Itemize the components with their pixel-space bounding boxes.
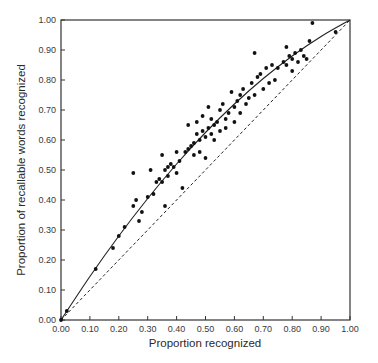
x-tick-label: 1.00 (341, 324, 359, 334)
data-point (256, 75, 260, 79)
data-point (201, 114, 205, 118)
data-point (296, 60, 300, 64)
data-point (186, 123, 190, 127)
data-point (250, 81, 254, 85)
x-tick-label: 0.50 (197, 324, 215, 334)
data-point (123, 225, 127, 229)
data-point (175, 171, 179, 175)
data-point (224, 126, 228, 130)
scatter-chart: 0.000.100.200.300.400.500.600.700.800.90… (0, 0, 378, 363)
data-point (65, 309, 69, 313)
data-point (209, 117, 213, 121)
data-point (273, 78, 277, 82)
data-point (259, 72, 263, 76)
y-tick-label: 0.90 (38, 45, 56, 55)
data-point (215, 120, 219, 124)
data-point (163, 204, 167, 208)
data-point (94, 267, 98, 271)
data-point (299, 48, 303, 52)
y-axis-title: Proportion of recallable words recognize… (15, 64, 27, 276)
y-tick-label: 0.10 (38, 285, 56, 295)
data-point (241, 87, 245, 91)
data-point (195, 120, 199, 124)
data-point (218, 129, 222, 133)
data-point (224, 117, 228, 121)
data-point (59, 318, 63, 322)
data-point (209, 132, 213, 136)
data-point (140, 210, 144, 214)
data-point (204, 135, 208, 139)
y-tick-label: 0.60 (38, 135, 56, 145)
data-point (212, 138, 216, 142)
y-tick-label: 0.70 (38, 105, 56, 115)
x-axis-ticks: 0.000.100.200.300.400.500.600.700.800.90… (52, 316, 359, 334)
data-points (59, 21, 337, 322)
data-point (163, 168, 167, 172)
x-tick-label: 0.60 (226, 324, 244, 334)
data-point (302, 54, 306, 58)
data-point (192, 141, 196, 145)
x-tick-label: 0.80 (283, 324, 301, 334)
y-tick-label: 0.20 (38, 255, 56, 265)
x-tick-label: 0.20 (110, 324, 128, 334)
data-point (230, 90, 234, 94)
data-point (285, 63, 289, 67)
data-point (290, 69, 294, 73)
data-point (287, 54, 291, 58)
data-point (221, 102, 225, 106)
data-point (261, 87, 265, 91)
data-point (238, 93, 242, 97)
data-point (189, 144, 193, 148)
data-point (111, 246, 115, 250)
data-point (238, 111, 242, 115)
data-point (175, 150, 179, 154)
data-point (198, 138, 202, 142)
x-tick-label: 0.00 (52, 324, 70, 334)
chance-diagonal-line (61, 20, 350, 320)
data-point (270, 63, 274, 67)
data-point (233, 120, 237, 124)
y-tick-label: 1.00 (38, 15, 56, 25)
data-point (267, 81, 271, 85)
data-point (293, 51, 297, 55)
y-tick-label: 0.50 (38, 165, 56, 175)
data-point (233, 105, 237, 109)
data-point (169, 162, 173, 166)
data-point (276, 66, 280, 70)
data-point (149, 168, 153, 172)
x-tick-label: 0.40 (168, 324, 186, 334)
data-point (186, 147, 190, 151)
data-point (308, 39, 312, 43)
data-point (192, 153, 196, 157)
data-point (160, 180, 164, 184)
data-point (253, 51, 257, 55)
data-point (334, 30, 338, 34)
x-tick-label: 0.10 (81, 324, 99, 334)
data-point (207, 126, 211, 130)
data-point (198, 150, 202, 154)
x-tick-label: 0.30 (139, 324, 157, 334)
data-point (201, 129, 205, 133)
data-point (152, 192, 156, 196)
y-tick-label: 0.40 (38, 195, 56, 205)
data-point (166, 174, 170, 178)
data-point (181, 186, 185, 190)
data-point (264, 66, 268, 70)
data-point (227, 111, 231, 115)
data-point (305, 57, 309, 61)
data-point (244, 102, 248, 106)
data-point (235, 99, 239, 103)
x-tick-label: 0.70 (255, 324, 273, 334)
data-point (178, 159, 182, 163)
data-point (290, 57, 294, 61)
data-point (247, 96, 251, 100)
data-point (212, 123, 216, 127)
data-point (282, 60, 286, 64)
data-point (218, 108, 222, 112)
data-point (117, 234, 121, 238)
data-point (137, 219, 141, 223)
data-point (166, 165, 170, 169)
data-point (157, 177, 161, 181)
data-point (134, 198, 138, 202)
data-point (131, 204, 135, 208)
